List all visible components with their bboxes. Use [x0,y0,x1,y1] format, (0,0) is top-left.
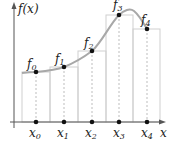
dotted-lines [36,15,147,122]
x-axis-label: x [160,126,167,140]
x-label-0: x0 [29,126,41,141]
x-label-2: x2 [85,126,97,141]
f-label-3: f3 [112,0,123,13]
y-axis-arrow-icon [12,2,17,9]
f-label-2: f2 [83,36,94,51]
x-label-4: x4 [141,126,153,141]
f-label-0: f0 [26,57,37,72]
x-label-1: x1 [57,126,69,141]
y-axis-label: f(x) [17,2,39,16]
diagram-svg: f(x) x f0 f1 f2 f3 f4 x0 x1 x2 x3 x4 [0,0,169,144]
function-sampling-diagram: f(x) x f0 f1 f2 f3 f4 x0 x1 x2 x3 x4 [0,0,169,144]
f-label-4: f4 [140,13,151,28]
x-label-3: x3 [113,126,125,141]
step-rectangles [22,15,160,122]
x-axis-arrow-icon [159,120,166,125]
f-label-1: f1 [54,52,65,67]
